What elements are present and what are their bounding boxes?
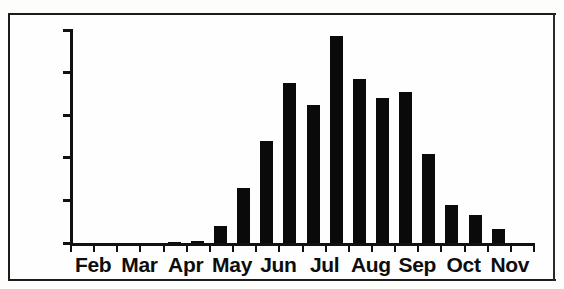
x-axis-tick	[533, 243, 535, 252]
y-axis-tick	[63, 199, 71, 202]
x-axis-tick	[510, 243, 512, 252]
figure-border-right	[553, 13, 555, 281]
x-axis-tick	[186, 243, 188, 252]
y-axis-tick	[63, 29, 71, 32]
bar	[492, 229, 505, 243]
x-axis-tick	[348, 243, 350, 252]
bar	[168, 242, 181, 244]
bar	[353, 79, 366, 243]
figure-container: 0100200300400500 FebMarAprMayJunJulAugSe…	[0, 0, 564, 289]
x-axis-tick	[440, 243, 442, 252]
bar	[260, 141, 273, 243]
x-axis-tick	[116, 243, 118, 252]
x-axis-tick	[302, 243, 304, 252]
bar	[422, 154, 435, 243]
x-axis-tick	[417, 243, 419, 252]
x-axis-tick	[139, 243, 141, 252]
bar	[330, 36, 343, 243]
bar	[237, 188, 250, 243]
plot-area	[70, 30, 533, 243]
x-axis-tick-label: Nov	[480, 253, 540, 277]
x-axis-tick	[325, 243, 327, 252]
bar	[469, 215, 482, 243]
y-axis-tick	[63, 114, 71, 117]
x-axis-tick	[209, 243, 211, 252]
bar	[445, 205, 458, 243]
x-axis-tick	[371, 243, 373, 252]
bar	[399, 92, 412, 243]
bar	[376, 98, 389, 243]
x-axis-tick	[278, 243, 280, 252]
x-axis-tick	[394, 243, 396, 252]
x-axis-tick	[70, 243, 72, 252]
bar	[283, 83, 296, 243]
bar	[191, 241, 204, 243]
y-axis-tick	[63, 156, 71, 159]
x-axis-tick	[232, 243, 234, 252]
x-axis-tick	[93, 243, 95, 252]
bar	[214, 226, 227, 243]
x-axis-tick	[255, 243, 257, 252]
x-axis-tick	[163, 243, 165, 252]
y-axis-tick	[63, 71, 71, 74]
x-axis-tick	[464, 243, 466, 252]
bar	[307, 105, 320, 243]
x-axis-tick	[487, 243, 489, 252]
